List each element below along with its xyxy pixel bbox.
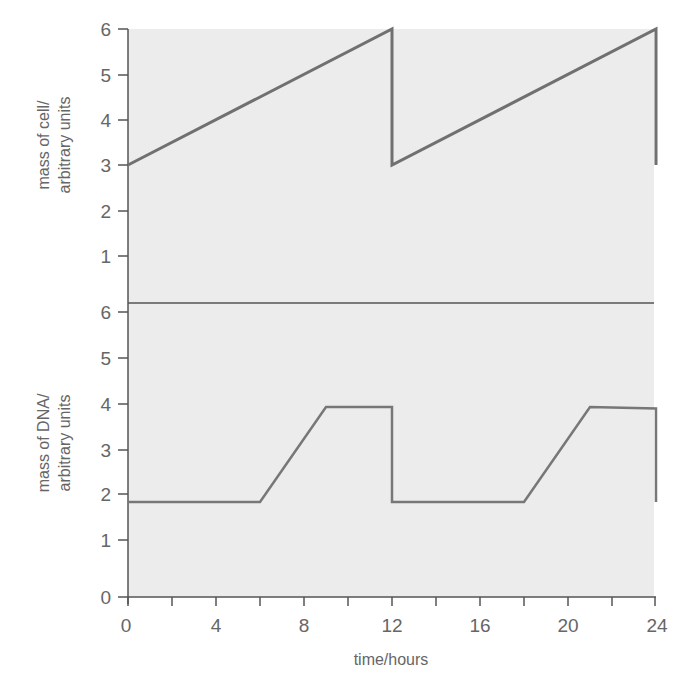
tick-label: 4 — [100, 110, 111, 131]
bottom-y-tick-labels: 6 5 4 3 2 1 0 — [100, 302, 111, 608]
tick-label: 6 — [100, 302, 111, 323]
tick-label: 1 — [100, 246, 111, 267]
y-axis-title-line2: arbitrary units — [56, 395, 73, 492]
tick-label: 12 — [381, 615, 402, 636]
tick-label: 2 — [100, 484, 111, 505]
top-y-axis-title: mass of cell/ arbitrary units — [35, 97, 73, 194]
bottom-y-ticks — [118, 312, 128, 540]
tick-label: 5 — [100, 348, 111, 369]
tick-label: 4 — [100, 394, 111, 415]
top-y-tick-labels: 6 5 4 3 2 1 — [100, 19, 111, 267]
tick-label: 0 — [121, 615, 132, 636]
x-ticks — [128, 597, 655, 606]
y-axis-title-line1: mass of DNA/ — [35, 393, 52, 492]
tick-label: 16 — [469, 615, 490, 636]
tick-label: 24 — [646, 615, 668, 636]
y-axis-title-line1: mass of cell/ — [35, 100, 52, 189]
cell-cycle-chart: 6 5 4 3 2 1 6 5 4 3 2 1 0 — [0, 0, 685, 686]
tick-label: 1 — [100, 530, 111, 551]
tick-label: 20 — [557, 615, 578, 636]
bottom-y-axis-title: mass of DNA/ arbitrary units — [35, 393, 73, 492]
tick-label: 5 — [100, 65, 111, 86]
tick-label: 6 — [100, 19, 111, 40]
tick-label: 0 — [100, 587, 111, 608]
y-axis-title-line2: arbitrary units — [56, 97, 73, 194]
tick-label: 2 — [100, 201, 111, 222]
tick-label: 4 — [211, 615, 222, 636]
top-y-ticks — [118, 29, 128, 256]
tick-label: 8 — [299, 615, 310, 636]
tick-label: 3 — [100, 155, 111, 176]
x-tick-labels: 0 4 8 12 16 20 24 — [121, 615, 668, 636]
x-axis-title: time/hours — [354, 651, 429, 668]
tick-label: 3 — [100, 440, 111, 461]
